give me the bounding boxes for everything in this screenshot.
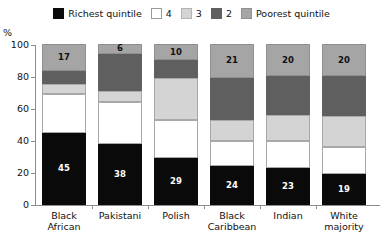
y-tick-mark [31,45,36,46]
bar-black-caribbean[interactable]: 2421 [210,44,254,205]
y-tick-mark [31,205,36,206]
bar-segment-value-label: 20 [282,56,294,65]
chart-plot-area: 100 80 60 40 20 0 4517386291024212320192… [0,0,383,244]
bar-segment-q3 [266,115,310,141]
bar-segment-q1: 20 [266,44,310,76]
bar-segment-q3 [210,120,254,141]
bar-segment-q3 [42,84,86,94]
bar-segment-value-label: 21 [226,56,238,65]
x-tick-mark [92,205,93,209]
bar-segment-q2 [154,60,198,78]
bar-segment-value-label: 6 [117,44,123,53]
bar-segment-value-label: 38 [114,170,126,179]
y-tick-label: 0 [5,200,29,209]
bar-segment-value-label: 19 [338,185,350,194]
y-tick-label: 20 [5,168,29,177]
y-tick-label: 40 [5,136,29,145]
bar-segment-q2 [42,71,86,84]
bar-segment-q3 [154,78,198,120]
bar-segment-q1: 20 [322,44,366,76]
bar-segment-q4 [98,102,142,144]
y-tick-mark [31,173,36,174]
bar-segment-q5: 45 [42,133,86,205]
bar-segment-q1: 17 [42,44,86,71]
y-axis-line [35,45,36,206]
bar-segment-value-label: 10 [170,48,182,57]
bar-polish[interactable]: 2910 [154,44,198,205]
bar-segment-value-label: 20 [338,56,350,65]
bar-segment-q4 [154,120,198,159]
bar-segment-q2 [210,78,254,120]
x-tick-mark [260,205,261,209]
bar-segment-q4 [42,94,86,133]
y-tick-label: 80 [5,72,29,81]
bar-segment-q1: 21 [210,44,254,78]
x-tick-mark [148,205,149,209]
bar-segment-q3 [98,91,142,102]
x-tick-mark [316,205,317,209]
y-tick-label: 60 [5,104,29,113]
bar-segment-value-label: 24 [226,181,238,190]
bar-segment-q5: 19 [322,174,366,205]
bar-segment-q5: 23 [266,168,310,205]
bar-segment-q2 [322,76,366,116]
bar-segment-q4 [266,141,310,168]
bar-segment-value-label: 23 [282,182,294,191]
bar-segment-q1: 10 [154,44,198,60]
x-tick-mark [204,205,205,209]
bar-segment-value-label: 29 [170,177,182,186]
bar-segment-q1: 6 [98,44,142,54]
x-axis-category-label: Whitemajority [308,210,380,232]
y-tick-mark [31,109,36,110]
bar-segment-value-label: 45 [58,164,70,173]
bar-segment-value-label: 17 [58,53,70,62]
bar-segment-q2 [98,54,142,91]
bar-segment-q3 [322,116,366,147]
y-tick-mark [31,141,36,142]
bar-segment-q5: 24 [210,166,254,205]
bar-segment-q5: 29 [154,158,198,205]
y-tick-label: 100 [5,40,29,49]
x-axis-line [35,205,380,206]
bar-black-african[interactable]: 4517 [42,44,86,205]
bar-segment-q2 [266,76,310,115]
bar-pakistani[interactable]: 386 [98,44,142,205]
bar-segment-q4 [210,141,254,167]
bar-indian[interactable]: 2320 [266,44,310,205]
bar-segment-q5: 38 [98,144,142,205]
bar-segment-q4 [322,147,366,174]
y-tick-mark [31,77,36,78]
bar-white-majority[interactable]: 1920 [322,44,366,205]
